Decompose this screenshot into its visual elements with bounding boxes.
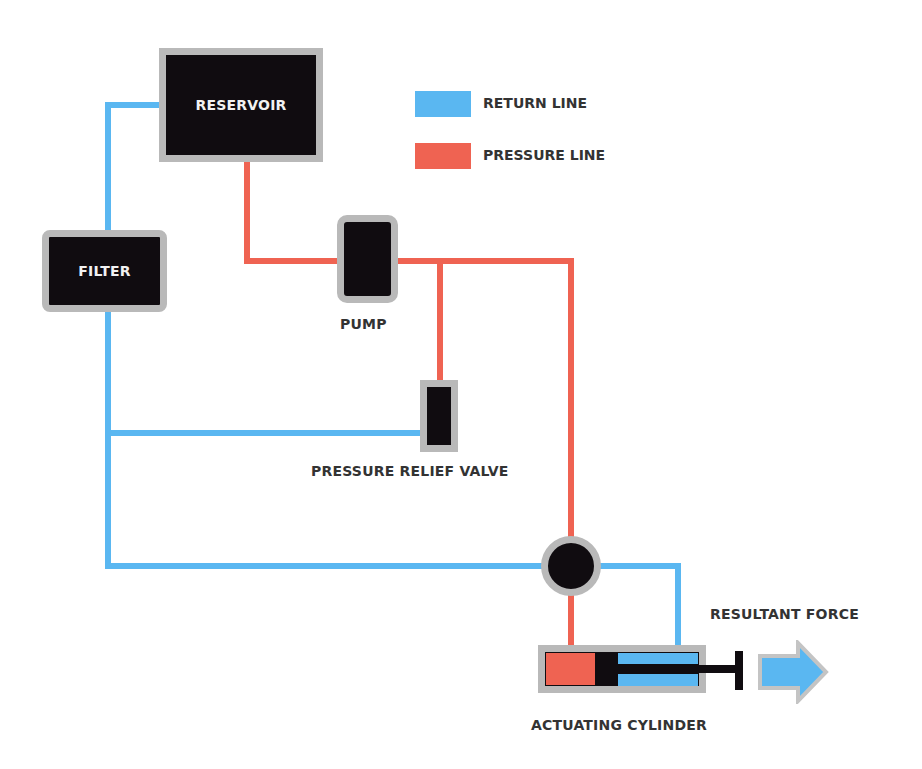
control-valve [541,536,601,596]
return-line-reservoir-top [105,102,165,108]
return-line-filter-down [105,310,111,569]
legend-label-return: RETURN LINE [483,95,587,111]
return-line-valve-to-cylinder-v [675,563,681,647]
piston-rod [699,665,737,673]
cylinder-return-chamber-top [618,653,698,664]
piston-rod-end [735,651,743,690]
pressure-line-to-relief-valve [437,258,443,382]
pump [337,215,398,303]
legend-label-pressure: PRESSURE LINE [483,147,605,163]
filter: FILTER [42,230,167,312]
actuating-cylinder [538,645,706,693]
return-line-valve-to-cylinder-h [598,563,681,569]
return-line-control-valve [105,563,545,569]
legend-swatch-pressure [415,143,471,169]
pressure-line-reservoir-down [244,160,250,264]
actuating-cylinder-label: ACTUATING CYLINDER [531,717,707,733]
pressure-line-to-pump [244,258,340,264]
resultant-force-label: RESULTANT FORCE [710,606,859,622]
pump-label: PUMP [340,316,387,332]
pressure-line-pump-out [396,258,574,264]
pressure-line-to-control-valve [568,258,574,538]
resultant-force-arrow-icon [756,640,830,704]
legend-swatch-return [415,91,471,117]
return-line-reservoir-filter [105,102,111,232]
cylinder-return-chamber-bottom [618,674,698,686]
reservoir: RESERVOIR [159,48,323,162]
reservoir-label: RESERVOIR [195,97,286,113]
return-line-relief-valve [105,430,423,436]
pressure-relief-valve [420,380,458,452]
pressure-line-valve-to-cylinder [568,594,574,647]
cylinder-pressure-chamber [546,653,595,685]
pressure-relief-valve-label: PRESSURE RELIEF VALVE [311,463,509,479]
filter-label: FILTER [78,263,130,279]
